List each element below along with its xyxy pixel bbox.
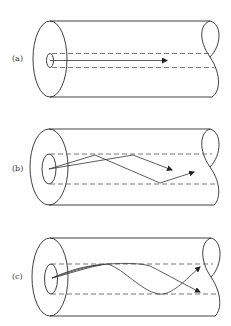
fiber-cut-end-back <box>210 21 219 57</box>
fiber-end-face <box>33 21 67 97</box>
graded-ray-1 <box>52 263 200 292</box>
panel-a <box>33 21 219 97</box>
graded-ray-2 <box>52 264 200 294</box>
fiber-cut-end-back <box>210 129 219 167</box>
fiber-end-face <box>32 238 68 316</box>
core-face <box>45 264 58 294</box>
fiber-cut-end-back <box>211 238 220 277</box>
panel-b <box>30 129 219 205</box>
panel-c <box>32 238 220 316</box>
diagram-canvas <box>0 0 231 326</box>
fiber-diagram: (a) (b) (c) <box>0 0 231 326</box>
zigzag-ray-1 <box>49 155 194 183</box>
fiber-cut-end <box>202 21 219 97</box>
